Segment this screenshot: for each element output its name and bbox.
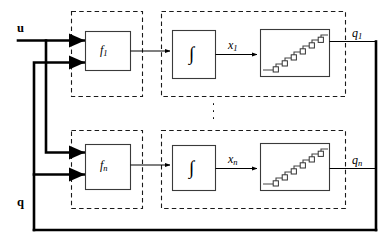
block-label-fn: fn xyxy=(100,159,108,172)
input-label-q: q xyxy=(17,196,24,209)
block-diagram: u q f1 fn ∫ ∫ x1 xn q1 qn xyxy=(0,0,384,243)
output-label-qn: qn xyxy=(352,154,362,167)
block-label-f1: f1 xyxy=(100,44,108,57)
signal-label-x1: x1 xyxy=(228,39,238,52)
block-label-integrator-n: ∫ xyxy=(189,158,194,177)
block-f1 xyxy=(86,32,131,71)
ellipsis-dot xyxy=(213,117,215,119)
input-label-u: u xyxy=(17,22,24,35)
wire-u-branch-to-fn xyxy=(46,41,84,153)
ellipsis-dot xyxy=(213,103,215,105)
diagram-canvas xyxy=(0,0,384,243)
signal-label-xn: xn xyxy=(228,153,238,166)
output-label-q1: q1 xyxy=(352,27,362,40)
ellipsis-dot xyxy=(213,110,215,112)
vertical-ellipsis xyxy=(212,103,215,119)
block-fn xyxy=(86,145,131,190)
wire-q-to-f1 xyxy=(34,63,84,231)
block-label-integrator-1: ∫ xyxy=(189,44,194,63)
